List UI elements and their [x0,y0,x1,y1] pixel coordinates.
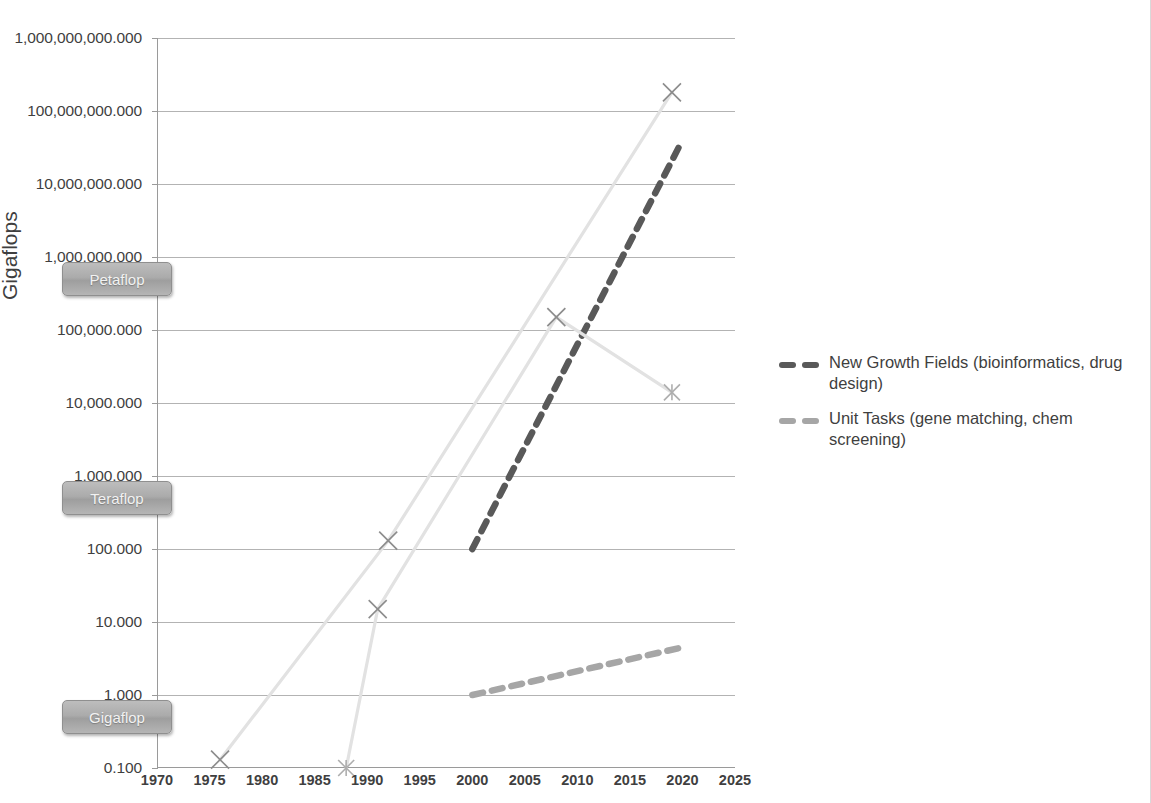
x-axis-tick-label: 1980 [246,772,278,788]
x-axis-tick-label: 2005 [509,772,541,788]
y-axis-tick [152,768,158,769]
legend-item-label: Unit Tasks (gene matching, chem screenin… [829,408,1139,450]
x-axis-tick-label: 1985 [298,772,330,788]
y-axis-tick [152,622,158,623]
gridline [158,622,735,623]
gridline [158,38,735,39]
gridline [158,549,735,550]
y-axis-tick [152,549,158,550]
gridline [158,476,735,477]
x-axis-tick-label: 2010 [561,772,593,788]
y-axis-tick-label: 1,000,000,000.000 [14,29,142,47]
gridline [158,111,735,112]
legend-item[interactable]: New Growth Fields (bioinformatics, drug … [779,352,1139,394]
x-axis-tick-label: 2000 [456,772,488,788]
y-axis-tick [152,111,158,112]
x-axis-tick-label: 1995 [404,772,436,788]
y-axis-tick [152,403,158,404]
legend-item-label: New Growth Fields (bioinformatics, drug … [829,352,1139,394]
y-axis-tick-label: 10,000,000.000 [36,175,142,193]
y-axis-tick [152,330,158,331]
milestone-badge-teraflop: Teraflop [62,481,172,515]
y-axis-tick-labels: 1,000,000,000.000100,000,000.00010,000,0… [0,0,152,803]
x-axis-tick-label: 1970 [141,772,173,788]
x-axis-tick-label: 2020 [666,772,698,788]
x-axis-tick-labels: 1970197519801985199019952000200520102015… [0,772,1151,802]
chart-canvas: Gigaflops 1,000,000,000.000100,000,000.0… [0,0,1151,803]
y-axis-tick [152,476,158,477]
gridline [158,403,735,404]
y-axis-tick-label: 10,000.000 [65,394,142,412]
legend-item[interactable]: Unit Tasks (gene matching, chem screenin… [779,408,1139,450]
gridline [158,695,735,696]
x-axis-tick-label: 1990 [351,772,383,788]
x-axis-tick-label: 2025 [719,772,751,788]
y-axis-tick [152,184,158,185]
legend-swatch-dashed-icon [779,411,821,431]
y-axis-tick [152,257,158,258]
y-axis-tick [152,38,158,39]
gridline [158,184,735,185]
y-axis-tick [152,695,158,696]
plot-area [157,38,735,768]
chart-legend: New Growth Fields (bioinformatics, drug … [779,352,1139,464]
legend-swatch-dashed-icon [779,355,821,375]
milestone-badge-gigaflop: Gigaflop [62,700,172,734]
gridline [158,257,735,258]
x-axis-tick-label: 2015 [614,772,646,788]
x-axis-tick-label: 1975 [193,772,225,788]
y-axis-tick-label: 10.000 [95,613,142,631]
milestone-badge-petaflop: Petaflop [62,262,172,296]
y-axis-tick-label: 100,000,000.000 [27,102,142,120]
y-axis-tick-label: 100,000.000 [57,321,142,339]
gridline [158,330,735,331]
y-axis-tick-label: 100.000 [87,540,142,558]
